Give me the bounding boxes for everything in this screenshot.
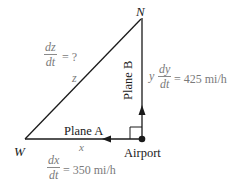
hypotenuse-rate-value: = ? — [62, 50, 77, 65]
airport-dot-icon — [139, 136, 146, 143]
plane-b-side-label: y — [149, 70, 154, 82]
plane-b-rate-numerator: dy — [158, 63, 171, 77]
plane-a-rate-value: = 350 mi/h — [63, 163, 116, 178]
plane-b-rate-denominator: dt — [160, 77, 169, 90]
plane-a-label: Plane A — [64, 125, 103, 138]
plane-a-rate-fraction: dx dt — [47, 154, 60, 181]
plane-a-rate-numerator: dx — [47, 154, 60, 168]
plane-b-rate-value: = 425 mi/h — [174, 72, 227, 87]
hypotenuse-rate-numerator: dz — [44, 41, 57, 55]
right-triangle-diagram — [0, 0, 235, 186]
vertex-label-west: W — [14, 145, 25, 158]
airport-label: Airport — [124, 147, 161, 160]
vertex-label-north: N — [136, 5, 145, 18]
plane-a-arrow-icon — [102, 136, 111, 143]
hypotenuse-rate-fraction: dz dt — [44, 41, 57, 68]
plane-b-arrow-icon — [139, 105, 146, 115]
plane-b-rate-fraction: dy dt — [158, 63, 171, 90]
plane-b-label: Plane B — [122, 61, 135, 100]
plane-a-side-label: x — [79, 142, 84, 153]
hypotenuse-rate-denominator: dt — [46, 55, 55, 68]
plane-a-rate-denominator: dt — [49, 168, 58, 181]
hypotenuse-label: z — [72, 72, 77, 84]
